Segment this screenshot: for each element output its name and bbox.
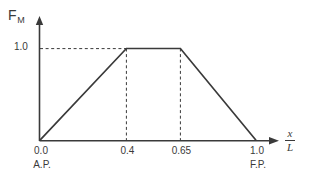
data-series-fm <box>40 49 256 141</box>
x-axis-title: x L <box>285 128 295 153</box>
x-tick-label-065: 0.65 <box>172 146 191 156</box>
chart-figure: FM 1.0 0.0 0.4 0.65 1.0 A.P. F.P. x L <box>0 0 310 183</box>
y-axis-arrow-icon <box>36 16 43 25</box>
y-axis-title: FM <box>8 8 25 25</box>
y-tick-label-1: 1.0 <box>14 42 28 52</box>
annotation-start-station: A.P. <box>33 160 51 170</box>
x-tick-label-04: 0.4 <box>120 146 134 156</box>
y-axis-title-subscript: M <box>17 15 25 25</box>
y-axis-title-base: F <box>8 7 17 23</box>
x-axis-title-numerator: x <box>285 128 295 140</box>
x-axis-arrow-icon <box>269 137 279 145</box>
annotation-end-station: F.P. <box>250 160 266 170</box>
x-tick-label-10: 1.0 <box>250 146 264 156</box>
x-axis-title-denominator: L <box>285 142 295 154</box>
x-tick-label-0: 0.0 <box>34 146 48 156</box>
